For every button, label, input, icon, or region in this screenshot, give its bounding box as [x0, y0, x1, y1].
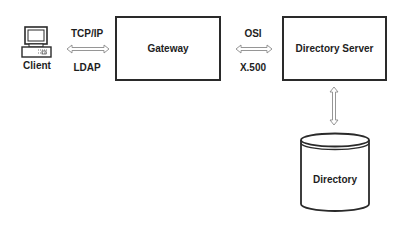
computer-icon: [16, 23, 56, 63]
bidirectional-arrow-icon: [66, 44, 110, 54]
ldap-label: LDAP: [64, 62, 110, 73]
bidirectional-arrow-icon: [235, 44, 273, 54]
directory-server-node: Directory Server: [282, 16, 387, 81]
database-cylinder-icon: [298, 132, 372, 214]
client-label: Client: [17, 60, 57, 71]
directory-server-label: Directory Server: [296, 43, 374, 54]
bidirectional-vertical-arrow-icon: [329, 86, 339, 126]
osi-label: OSI: [233, 28, 273, 39]
gateway-label: Gateway: [147, 43, 188, 54]
x500-label: X.500: [233, 62, 273, 73]
gateway-node: Gateway: [115, 16, 221, 81]
directory-label: Directory: [300, 174, 370, 185]
tcpip-label: TCP/IP: [64, 28, 110, 39]
